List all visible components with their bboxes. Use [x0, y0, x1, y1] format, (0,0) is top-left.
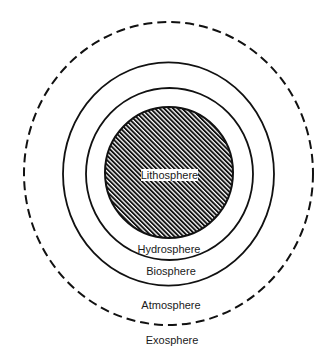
hydrosphere-label: Hydrosphere — [138, 243, 201, 255]
exosphere-label: Exosphere — [146, 334, 199, 346]
biosphere-label: Biosphere — [146, 265, 196, 277]
earth-spheres-diagram: Lithosphere Hydrosphere Biosphere Atmosp… — [0, 0, 331, 362]
lithosphere-label: Lithosphere — [141, 169, 199, 181]
atmosphere-label: Atmosphere — [141, 299, 200, 311]
